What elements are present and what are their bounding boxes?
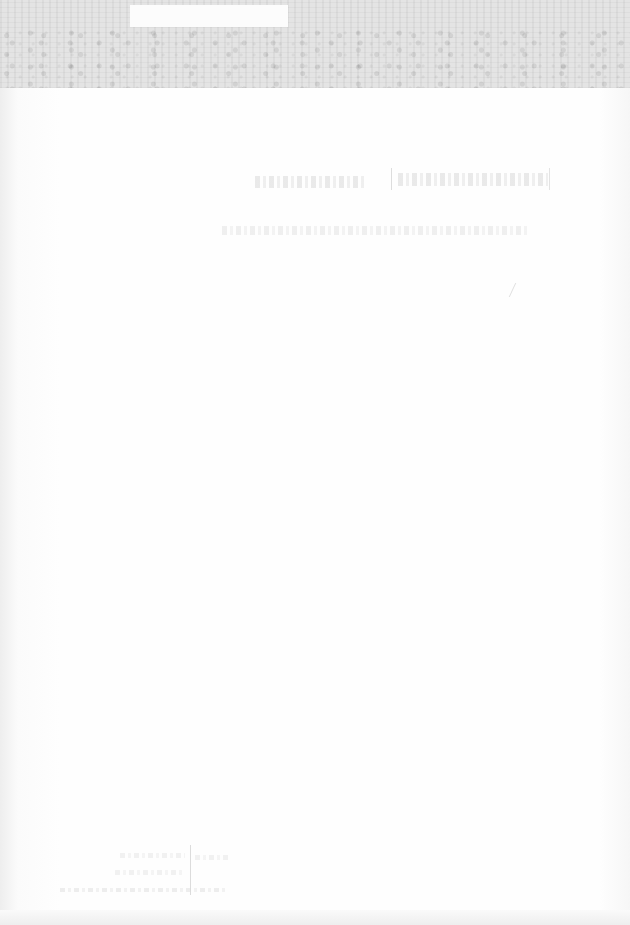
title-separator	[391, 168, 392, 190]
banner-texture	[0, 28, 630, 88]
footer-faded-text	[115, 870, 185, 875]
scanned-page	[0, 0, 630, 925]
banner-label-text	[130, 5, 131, 6]
header-banner	[0, 0, 630, 88]
subtitle-faded-text	[222, 226, 527, 235]
footer-faded-text	[120, 853, 185, 858]
page-bottom-edge	[0, 910, 630, 925]
title-faded-text-right	[398, 173, 548, 186]
footer-faded-text	[195, 855, 230, 860]
title-faded-text-left	[255, 176, 365, 188]
footer-faded-text	[60, 888, 225, 892]
faint-mark	[509, 283, 527, 297]
title-end-rule	[549, 168, 550, 190]
banner-label-patch	[130, 5, 288, 27]
